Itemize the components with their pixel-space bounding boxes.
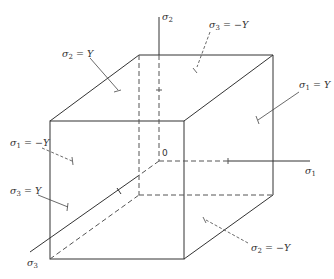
face-label-sigma3-neg: σ3 = −Y xyxy=(209,20,248,32)
origin-label: 0 xyxy=(162,149,168,158)
leader-tick-sigma1-neg xyxy=(72,157,73,165)
face-label-sigma2-pos: σ2 = Y xyxy=(62,49,93,61)
face-label-sigma1-neg: σ1 = −Y xyxy=(10,138,49,150)
leader-sigma2-neg xyxy=(206,220,248,243)
front-face xyxy=(50,121,184,259)
leader-sigma3-pos xyxy=(38,195,68,207)
sigma1-axis-label: σ1 xyxy=(305,166,316,178)
leader-tick-sigma3-neg xyxy=(193,68,197,73)
leader-tick-sigma3-pos xyxy=(67,203,68,211)
leader-tick-sigma2-neg xyxy=(203,217,206,223)
top-left-connector xyxy=(50,55,139,121)
face-label-sigma2-neg: σ2 = −Y xyxy=(251,243,290,255)
sigma2-axis-label: σ2 xyxy=(162,12,173,24)
hidden-bottom-left-connector xyxy=(50,195,139,259)
sigma3-axis-hidden xyxy=(138,161,159,176)
sigma3-axis-label: σ3 xyxy=(27,258,38,270)
face-label-sigma1-pos: σ1 = Y xyxy=(299,80,330,92)
cube-diagram-svg xyxy=(0,0,334,279)
leader-sigma3-neg xyxy=(197,32,210,67)
top-right-connector xyxy=(184,55,273,121)
leader-tick-sigma2-pos xyxy=(114,90,121,92)
diagram-root: σ2 σ1 σ3 0 σ2 = Y σ3 = −Y σ1 = Y σ1 = −Y… xyxy=(0,0,334,279)
sigma3-axis-visible xyxy=(30,176,138,252)
leader-sigma1-pos xyxy=(258,92,299,120)
face-label-sigma3-pos: σ3 = Y xyxy=(10,186,41,198)
